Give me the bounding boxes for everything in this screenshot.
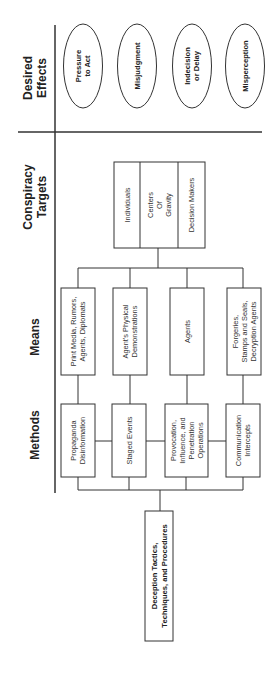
means-label-line: Print Media, Rumors,: [69, 297, 78, 366]
desired-effect-label-line: Misperception: [241, 40, 250, 92]
header-conspiracy-targets: ConspiracyTargets: [21, 164, 49, 230]
desired-effect-ellipse: Indecisionor Delay: [173, 24, 212, 108]
desired-effect-label-line: Indecision: [183, 47, 192, 85]
means-label-line: Agents: [183, 320, 192, 343]
method-label-line: Propaganda: [69, 419, 78, 460]
method-label-line: Provocation,: [169, 420, 178, 461]
desired-effect-label-line: Pressure: [74, 50, 83, 83]
root-label-line: Deception Tactics,: [150, 543, 159, 610]
desired-effect-label-line: or Delay: [192, 50, 201, 81]
deception-diagram: DesiredEffects ConspiracyTargets Means M…: [0, 0, 271, 678]
means-label-line: Agent's Physical: [121, 304, 130, 358]
method-label: Provocation,Influence, andPenetrationOpe…: [169, 417, 205, 463]
header-conspiracy-targets-text: ConspiracyTargets: [21, 164, 49, 230]
means-label-line: Stamps and Seals,: [240, 300, 249, 362]
header-desired-effects-text-line: Desired: [21, 56, 35, 100]
desired-effect-label: Misjudgment: [133, 42, 142, 89]
method-box: Provocation,Influence, andPenetrationOpe…: [165, 404, 208, 477]
desired-effect-label-line: Misjudgment: [133, 42, 142, 89]
header-desired-effects-text-line: Effects: [35, 58, 49, 98]
header-means-text: Means: [28, 318, 42, 356]
means-label-line: Decryption Agents: [249, 301, 258, 361]
method-label-line: Influence, and: [178, 417, 187, 463]
desired-effect-ellipse: Misjudgment: [118, 24, 157, 108]
header-desired-effects-text: DesiredEffects: [21, 56, 49, 100]
means-box: Print Media, Rumors,Agents, Diplomats: [61, 288, 95, 375]
method-box: PropagandaDisinformation: [61, 404, 95, 477]
desired-effect-label: Misperception: [241, 40, 250, 92]
means-group: Print Media, Rumors,Agents, DiplomatsAge…: [61, 288, 261, 375]
method-box: Staged Events: [112, 404, 146, 477]
header-methods-text-line: Methods: [28, 410, 42, 460]
desired-effects-group: Pressureto ActMisjudgmentIndecisionor De…: [64, 24, 265, 108]
target-cell-label: Individuals: [123, 187, 132, 222]
target-cell-label-line: Centers: [146, 192, 155, 218]
header-means-text-line: Means: [28, 318, 42, 356]
means-box: Forgeries,Stamps and Seals,Decryption Ag…: [227, 288, 261, 375]
target-cell-label: Decision Makers: [187, 177, 196, 232]
means-label-line: Agents, Diplomats: [78, 301, 87, 361]
method-label-line: Penetration: [187, 422, 196, 460]
desired-effect-label-line: to Act: [83, 55, 92, 77]
means-label: Agents: [183, 320, 192, 343]
header-conspiracy-targets-text-line: Targets: [35, 175, 49, 218]
connectors: [78, 248, 243, 511]
header-methods-text: Methods: [28, 410, 42, 460]
header-desired-effects: DesiredEffects: [21, 56, 49, 100]
method-box: CommunicationIntercepts: [226, 404, 260, 477]
desired-effect-ellipse: Pressureto Act: [64, 24, 103, 108]
method-label-line: Intercepts: [243, 424, 252, 457]
desired-effect-ellipse: Misperception: [226, 24, 265, 108]
root-label-line: Techniques, and Procedures: [160, 524, 169, 627]
target-cell-label-line: Gravity: [164, 193, 173, 217]
means-label: Agent's PhysicalDemonstrations: [121, 304, 139, 358]
means-box: Agents: [170, 288, 204, 375]
target-cell-label-line: Decision Makers: [187, 177, 196, 232]
method-label-line: Disinformation: [78, 417, 87, 464]
root-box: Deception Tactics,Techniques, and Proced…: [145, 511, 173, 641]
header-methods: Methods: [28, 410, 42, 460]
header-conspiracy-targets-text-line: Conspiracy: [21, 164, 35, 230]
means-label-line: Forgeries,: [231, 315, 240, 348]
method-label-line: Operations: [196, 422, 205, 458]
target-cell-label-line: Of: [155, 200, 164, 209]
means-box: Agent's PhysicalDemonstrations: [113, 288, 147, 375]
method-label-line: Communication: [234, 415, 243, 466]
means-label: Print Media, Rumors,Agents, Diplomats: [69, 297, 87, 366]
header-means: Means: [28, 318, 42, 356]
method-label-line: Staged Events: [125, 416, 134, 464]
method-label: PropagandaDisinformation: [69, 417, 87, 464]
conspiracy-targets-box: IndividualsCentersOfGravityDecision Make…: [114, 162, 205, 248]
method-label: Staged Events: [125, 416, 134, 464]
desired-effect-label: Indecisionor Delay: [183, 47, 201, 85]
target-cell-label-line: Individuals: [123, 187, 132, 222]
means-label-line: Demonstrations: [130, 305, 139, 357]
